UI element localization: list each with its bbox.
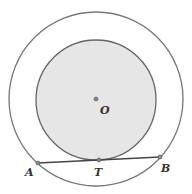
point-a: [36, 161, 40, 165]
label-b: B: [160, 162, 170, 175]
label-a: A: [24, 166, 34, 179]
point-t: [97, 158, 101, 162]
point-o: [94, 97, 98, 101]
label-t: T: [94, 166, 103, 179]
diagram: O A T B: [0, 0, 192, 194]
point-b: [158, 155, 162, 159]
label-o: O: [100, 104, 110, 117]
